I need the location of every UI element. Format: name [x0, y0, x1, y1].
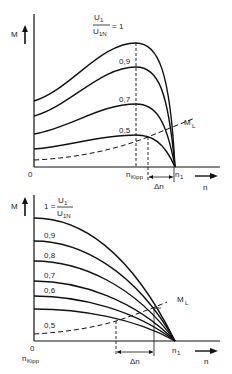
- bottom-curve-label-0.5: 0,5: [44, 321, 56, 330]
- top-load-sub: L: [192, 123, 196, 129]
- bottom-origin-label: 0: [30, 344, 35, 353]
- top-delta-n-label: Δn: [154, 182, 164, 191]
- bottom-curve-label-0.7: 0,7: [44, 271, 56, 280]
- bottom-diagram: M 1 = U 1 U 1N 0,9 0,8 0,7 0,6 0,5 M L: [11, 195, 220, 366]
- bottom-curve-label-0.8: 0,8: [44, 251, 56, 260]
- top-m-arrow-icon: [22, 25, 28, 44]
- bottom-sync-sub: 1: [177, 350, 181, 356]
- top-curve-label-0.7: 0,7: [119, 95, 131, 104]
- top-curve-0.9: [34, 67, 175, 167]
- svg-text:1N: 1N: [99, 31, 107, 37]
- svg-text:1 =: 1 =: [44, 202, 56, 211]
- bottom-x-axis-label: n: [204, 357, 208, 366]
- top-curve-0.7: [34, 104, 175, 167]
- bottom-curve-label-0.9: 0,9: [44, 231, 56, 240]
- bottom-load-label: M: [177, 295, 184, 304]
- svg-text:1: 1: [100, 17, 104, 23]
- bottom-n-arrow-icon: [195, 348, 218, 354]
- svg-text:= 1: = 1: [112, 22, 124, 31]
- top-n-arrow-icon: [195, 173, 218, 179]
- top-y-axis-label: M: [11, 30, 18, 39]
- top-load-label: M: [184, 118, 191, 127]
- top-origin-label: 0: [28, 170, 33, 179]
- top-curve-label-0.9: 0,9: [119, 57, 131, 66]
- bottom-curve-label-0.6: 0,6: [44, 286, 56, 295]
- bottom-load-sub: L: [185, 300, 189, 306]
- top-curve-1: [34, 43, 175, 167]
- svg-text:1: 1: [64, 200, 68, 206]
- top-kipp-label: n: [126, 170, 130, 179]
- top-diagram: M U 1 U 1N = 1 0,9 0,7 0,5 M L: [11, 13, 220, 192]
- bottom-y-axis-label: M: [11, 202, 18, 211]
- bottom-m-arrow-icon: [22, 197, 28, 216]
- diagram-canvas: M U 1 U 1N = 1 0,9 0,7 0,5 M L: [0, 0, 232, 374]
- top-sync-sub: 1: [180, 174, 184, 180]
- bottom-kipp-label: n: [22, 354, 26, 363]
- top-x-axis-label: n: [203, 183, 207, 192]
- top-curve-label-0.5: 0,5: [119, 126, 131, 135]
- bottom-delta-n-label: Δn: [130, 357, 140, 366]
- top-kipp-sub: Kipp: [131, 174, 144, 180]
- top-delta-n-dimension: [149, 175, 173, 179]
- bottom-delta-n-dimension: [117, 350, 153, 354]
- top-ratio-label: U 1 U 1N = 1: [93, 13, 124, 37]
- bottom-sync-label: n: [172, 346, 176, 355]
- bottom-kipp-sub: Kipp: [27, 358, 40, 364]
- bottom-ratio-label: 1 = U 1 U 1N: [44, 196, 73, 219]
- top-load-curve: [34, 118, 195, 160]
- top-curve-0.5: [34, 135, 175, 167]
- svg-text:1N: 1N: [63, 213, 71, 219]
- top-sync-label: n: [175, 170, 179, 179]
